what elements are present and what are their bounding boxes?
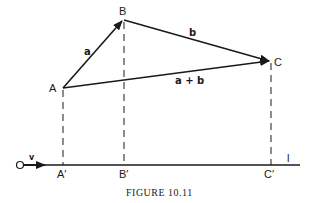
- vector-label-b: b: [189, 27, 196, 38]
- projection-lines: [63, 22, 271, 165]
- vector-a: [63, 21, 122, 88]
- origin-point: [17, 162, 24, 169]
- line-label-l: l: [287, 152, 289, 164]
- vector-projection-diagram: A B C a b a + b v l A′ B′ C′ FIGURE 10.1…: [0, 0, 312, 203]
- projection-label-b: B′: [119, 168, 128, 180]
- unit-vector-label: v: [29, 153, 35, 162]
- vector-label-sum: a + b: [175, 75, 204, 86]
- projection-label-a: A′: [57, 168, 66, 180]
- point-label-c: C: [274, 56, 282, 68]
- vector-b: [124, 20, 269, 61]
- projection-label-c: C′: [264, 168, 274, 180]
- point-label-b: B: [119, 5, 126, 17]
- point-label-a: A: [49, 82, 57, 94]
- vector-label-a: a: [84, 46, 91, 57]
- vector-a-plus-b: [63, 61, 269, 88]
- figure-caption: FIGURE 10.11: [126, 187, 193, 198]
